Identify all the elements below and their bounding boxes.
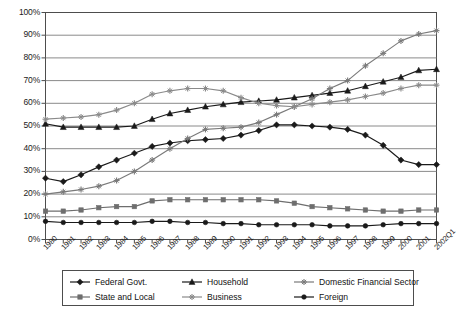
- data-point: [309, 101, 315, 107]
- data-point: [97, 206, 101, 210]
- legend-marker-icon: [69, 292, 91, 302]
- legend-item-domestic-financial-sector[interactable]: Domestic Financial Sector: [293, 277, 419, 287]
- data-point: [77, 278, 83, 284]
- data-point: [168, 219, 173, 224]
- data-point: [274, 222, 279, 227]
- series-state-and-local: [43, 198, 438, 214]
- data-point: [96, 112, 102, 118]
- legend-item-business[interactable]: Business: [181, 292, 293, 302]
- data-point: [185, 220, 190, 225]
- legend-label: Domestic Financial Sector: [319, 277, 419, 287]
- legend-marker-icon: [293, 277, 315, 287]
- data-point: [43, 116, 49, 122]
- legend-marker-icon: [181, 292, 203, 302]
- data-point: [96, 164, 102, 170]
- data-point: [380, 50, 386, 56]
- legend-item-foreign[interactable]: Foreign: [293, 292, 419, 302]
- data-point: [257, 198, 261, 202]
- data-point: [328, 206, 332, 210]
- data-point: [310, 204, 314, 208]
- data-point: [221, 221, 226, 226]
- legend-marker-icon: [69, 277, 91, 287]
- data-point: [416, 82, 422, 88]
- series-domestic-financial-sector: [43, 28, 440, 197]
- data-point: [292, 201, 296, 205]
- legend-marker-icon: [181, 277, 203, 287]
- data-point: [96, 183, 102, 189]
- data-point: [220, 88, 226, 94]
- data-point: [434, 221, 439, 226]
- data-point: [131, 100, 137, 106]
- data-point: [239, 198, 243, 202]
- data-point: [220, 135, 226, 141]
- legend-item-federal-govt[interactable]: Federal Govt.: [69, 277, 181, 287]
- series-foreign: [43, 219, 439, 228]
- data-point: [417, 208, 421, 212]
- data-point: [113, 157, 119, 163]
- data-point: [274, 103, 280, 109]
- data-point: [291, 122, 297, 128]
- data-point: [114, 107, 120, 113]
- data-point: [79, 208, 83, 212]
- data-point: [433, 161, 439, 167]
- data-point: [381, 209, 385, 213]
- data-point: [60, 189, 66, 195]
- data-point: [168, 198, 172, 202]
- data-point: [362, 93, 368, 99]
- data-point: [202, 86, 208, 92]
- legend-marker-icon: [293, 292, 315, 302]
- data-point: [167, 140, 173, 146]
- data-point: [150, 219, 155, 224]
- legend-item-household[interactable]: Household: [181, 277, 293, 287]
- data-point: [78, 114, 84, 120]
- data-point: [203, 220, 208, 225]
- data-point: [363, 224, 368, 229]
- data-point: [302, 294, 307, 299]
- data-point: [78, 294, 82, 298]
- data-point: [239, 221, 244, 226]
- data-point: [327, 124, 333, 130]
- data-point: [416, 221, 421, 226]
- data-point: [61, 220, 66, 225]
- series-line: [46, 31, 437, 194]
- data-point: [345, 126, 351, 132]
- data-point: [43, 209, 47, 213]
- data-point: [434, 28, 440, 34]
- data-point: [185, 86, 191, 92]
- data-point: [434, 208, 438, 212]
- data-point: [398, 86, 404, 92]
- data-point: [221, 198, 225, 202]
- data-point: [149, 143, 155, 149]
- data-point: [416, 31, 422, 37]
- chart-legend: Federal Govt.HouseholdDomestic Financial…: [62, 270, 414, 306]
- legend-label: Business: [207, 292, 242, 302]
- data-point: [43, 219, 48, 224]
- series-federal-govt: [42, 122, 439, 185]
- data-point: [60, 179, 66, 185]
- data-point: [131, 168, 137, 174]
- data-point: [345, 224, 350, 229]
- data-point: [380, 90, 386, 96]
- data-point: [434, 82, 440, 88]
- data-point: [345, 207, 349, 211]
- data-point: [399, 209, 403, 213]
- data-point: [256, 100, 262, 106]
- data-point: [238, 95, 244, 101]
- data-point: [327, 86, 333, 92]
- data-point: [381, 222, 386, 227]
- data-point: [79, 220, 84, 225]
- legend-item-state-and-local[interactable]: State and Local: [69, 292, 181, 302]
- legend-label: Foreign: [319, 292, 348, 302]
- data-point: [149, 91, 155, 97]
- legend-label: Federal Govt.: [95, 277, 147, 287]
- data-point: [362, 132, 368, 138]
- data-point: [362, 63, 368, 69]
- data-point: [97, 220, 102, 225]
- data-point: [309, 96, 315, 102]
- data-point: [42, 175, 48, 181]
- data-point: [167, 146, 173, 152]
- data-point: [132, 220, 137, 225]
- data-point: [274, 199, 278, 203]
